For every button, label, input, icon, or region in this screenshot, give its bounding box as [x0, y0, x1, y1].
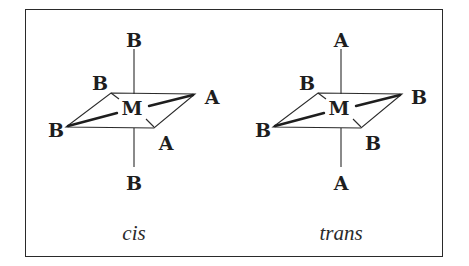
- cis-ligand-left: B: [48, 119, 64, 141]
- cis-caption: cis: [122, 221, 145, 245]
- trans-isomer: A B B M B B A trans: [255, 29, 427, 245]
- trans-ligand-right: B: [411, 86, 427, 108]
- cis-ligand-back-left: B: [92, 72, 108, 94]
- cis-isomer: B B A M B A B cis: [48, 29, 220, 245]
- cis-metal-center: M: [121, 97, 142, 119]
- cis-bond-back: [111, 93, 119, 99]
- cis-ligand-top: B: [126, 29, 142, 51]
- trans-metal-center: M: [328, 97, 349, 119]
- trans-ligand-front: B: [365, 132, 381, 154]
- cis-ligand-front: A: [158, 132, 174, 154]
- trans-ligand-back-left: B: [299, 72, 315, 94]
- trans-ligand-left: B: [255, 119, 271, 141]
- isomer-diagram: B B A M B A B cis A B B M B B A trans: [0, 0, 469, 266]
- trans-bond-back: [318, 93, 326, 99]
- cis-ligand-right: A: [204, 86, 220, 108]
- trans-ligand-bottom: A: [333, 172, 349, 194]
- trans-caption: trans: [319, 221, 362, 245]
- trans-bond-front: [353, 119, 361, 127]
- trans-ligand-top: A: [333, 29, 349, 51]
- cis-bond-front: [146, 119, 154, 127]
- cis-ligand-bottom: B: [126, 172, 142, 194]
